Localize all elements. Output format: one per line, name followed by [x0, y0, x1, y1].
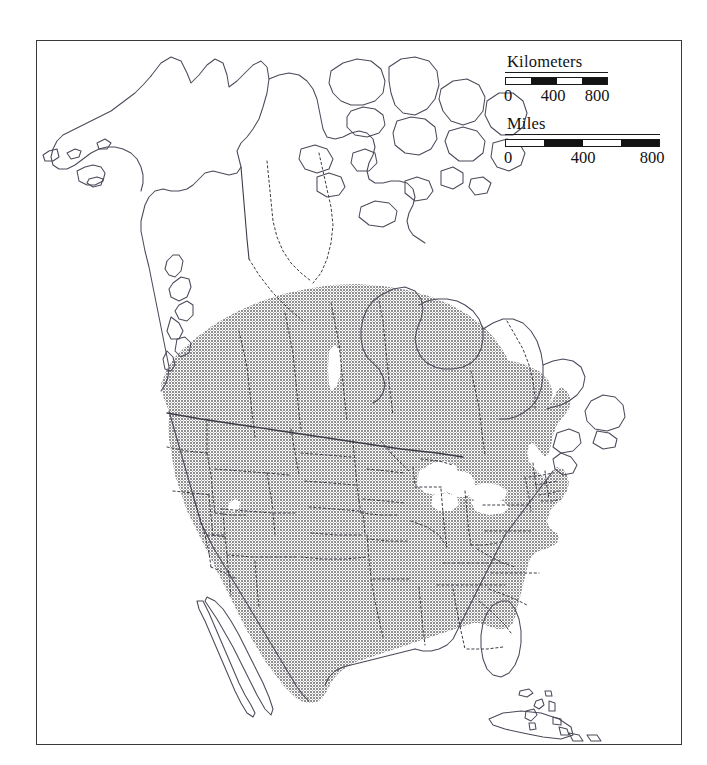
scale-segment — [557, 78, 582, 84]
scale-tick-label: 0 — [504, 148, 512, 168]
scale-labels-miles: 0 400 800 — [505, 148, 660, 168]
scale-tick-label: 800 — [585, 86, 610, 106]
scale-segment — [506, 140, 544, 146]
scale-title-kilometers: Kilometers — [505, 52, 608, 71]
scale-segment — [506, 78, 531, 84]
scale-tick-label: 400 — [571, 148, 596, 168]
scale-bar-graphic-kilometers — [505, 77, 608, 85]
scale-segment — [583, 140, 621, 146]
scale-title-miles: Miles — [505, 114, 660, 133]
scale-segment — [582, 78, 607, 84]
scale-segment — [544, 140, 582, 146]
scale-rule-miles — [505, 134, 660, 135]
scale-rule-kilometers — [505, 72, 608, 73]
species-range-shading — [161, 284, 571, 703]
scale-tick-label: 400 — [541, 86, 566, 106]
scale-labels-kilometers: 0 400 800 — [505, 86, 608, 106]
scale-bar-kilometers: Kilometers 0 400 800 — [505, 52, 608, 106]
scale-bar-graphic-miles — [505, 139, 660, 147]
scale-tick-label: 800 — [640, 148, 665, 168]
scale-bar-miles: Miles 0 400 800 — [505, 114, 660, 168]
scale-segment — [531, 78, 556, 84]
scale-segment — [621, 140, 659, 146]
range-map-figure: Kilometers 0 400 800 Miles 0 400 800 — [0, 0, 707, 765]
scale-tick-label: 0 — [504, 86, 512, 106]
